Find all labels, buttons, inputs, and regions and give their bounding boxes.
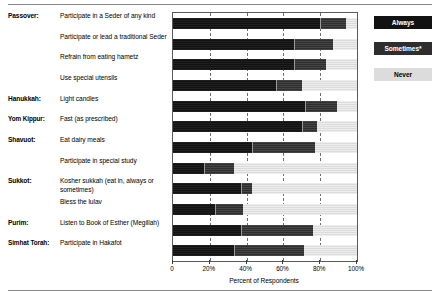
- bar-segment-never[interactable]: [313, 225, 357, 236]
- category-label-row: Hanukkah:Light candles: [0, 95, 170, 113]
- bar-segment-sometimes[interactable]: [234, 245, 304, 256]
- practice-label: Bless the lulav: [60, 198, 172, 206]
- practice-label: Participate in a Seder of any kind: [60, 12, 172, 20]
- bar-row[interactable]: [173, 183, 357, 194]
- x-axis-label: Percent of Respondents: [172, 277, 356, 284]
- bar-row[interactable]: [173, 39, 357, 50]
- category-label-column: Passover:Participate in a Seder of any k…: [0, 14, 172, 254]
- bar-segment-never[interactable]: [252, 183, 357, 194]
- bar-segment-never[interactable]: [317, 121, 357, 132]
- practice-label: Light candles: [60, 95, 172, 103]
- practice-label: Refrain from eating hametz: [60, 53, 172, 61]
- bar-row[interactable]: [173, 18, 357, 29]
- practice-label: Kosher sukkah (eat in, always or sometim…: [60, 177, 172, 193]
- bar-segment-sometimes[interactable]: [241, 183, 252, 194]
- bar-row[interactable]: [173, 142, 357, 153]
- bar-segment-sometimes[interactable]: [305, 101, 336, 112]
- bar-segment-always[interactable]: [173, 18, 320, 29]
- x-tick-label: 60%: [269, 265, 295, 272]
- legend-item-sometimes[interactable]: Sometimes*: [374, 42, 432, 55]
- bar-segment-never[interactable]: [243, 204, 357, 215]
- bar-row[interactable]: [173, 59, 357, 70]
- bar-segment-always[interactable]: [173, 204, 215, 215]
- holiday-label: Sukkot:: [8, 177, 68, 185]
- bar-segment-always[interactable]: [173, 101, 305, 112]
- bar-segment-sometimes[interactable]: [215, 204, 243, 215]
- x-tick-label: 80%: [306, 265, 332, 272]
- x-tick: [209, 260, 210, 264]
- category-label-row: Bless the lulav: [0, 198, 170, 216]
- bar-group: [173, 13, 357, 261]
- bar-segment-always[interactable]: [173, 245, 234, 256]
- x-axis: 020%40%60%80%100%: [172, 260, 356, 290]
- bar-segment-sometimes[interactable]: [204, 163, 233, 174]
- category-label-row: Refrain from eating hametz: [0, 53, 170, 71]
- category-label-row: Passover:Participate in a Seder of any k…: [0, 12, 170, 30]
- bar-segment-sometimes[interactable]: [320, 18, 346, 29]
- practice-label: Eat dairy meals: [60, 136, 172, 144]
- category-label-row: Simhat Torah:Participate in Hakafot: [0, 239, 170, 257]
- holiday-label: Purim:: [8, 219, 68, 227]
- practice-label: Use special utensils: [60, 74, 172, 82]
- bar-segment-always[interactable]: [173, 121, 302, 132]
- bar-row[interactable]: [173, 80, 357, 91]
- bar-segment-sometimes[interactable]: [294, 39, 333, 50]
- x-tick: [356, 260, 357, 264]
- holiday-label: Passover:: [8, 12, 68, 20]
- bar-segment-always[interactable]: [173, 183, 241, 194]
- bar-segment-never[interactable]: [302, 80, 357, 91]
- bar-segment-never[interactable]: [315, 142, 357, 153]
- bar-segment-never[interactable]: [304, 245, 357, 256]
- x-tick: [319, 260, 320, 264]
- category-label-row: Shavuot:Eat dairy meals: [0, 136, 170, 154]
- x-tick-label: 40%: [233, 265, 259, 272]
- practice-label: Participate or lead a traditional Seder: [60, 33, 172, 41]
- bar-segment-always[interactable]: [173, 225, 241, 236]
- category-label-row: Sukkot:Kosher sukkah (eat in, always or …: [0, 177, 170, 195]
- category-label-row: Purim:Listen to Book of Esther (Megillah…: [0, 219, 170, 237]
- bar-segment-always[interactable]: [173, 80, 276, 91]
- practice-label: Participate in Hakafot: [60, 239, 172, 247]
- bar-segment-always[interactable]: [173, 59, 294, 70]
- plot-area: [172, 12, 358, 262]
- legend-item-never[interactable]: Never: [374, 68, 432, 81]
- bar-segment-sometimes[interactable]: [252, 142, 315, 153]
- bar-segment-never[interactable]: [326, 59, 357, 70]
- bar-row[interactable]: [173, 163, 357, 174]
- bar-segment-never[interactable]: [333, 39, 357, 50]
- x-tick-label: 0: [159, 265, 185, 272]
- bar-segment-always[interactable]: [173, 39, 294, 50]
- category-label-row: Yom Kippur:Fast (as prescribed): [0, 115, 170, 133]
- bar-segment-sometimes[interactable]: [276, 80, 302, 91]
- legend-item-always[interactable]: Always: [374, 16, 432, 29]
- category-label-row: Use special utensils: [0, 74, 170, 92]
- bottom-divider-rule: [8, 290, 432, 291]
- bar-segment-never[interactable]: [346, 18, 357, 29]
- bar-segment-always[interactable]: [173, 163, 204, 174]
- bar-segment-always[interactable]: [173, 142, 252, 153]
- x-tick-label: 100%: [343, 265, 369, 272]
- bar-segment-never[interactable]: [337, 101, 357, 112]
- practice-label: Participate in special study: [60, 157, 172, 165]
- figure: Passover:Participate in a Seder of any k…: [0, 0, 440, 298]
- category-label-row: Participate in special study: [0, 157, 170, 175]
- x-tick: [172, 260, 173, 264]
- x-tick: [282, 260, 283, 264]
- holiday-label: Hanukkah:: [8, 95, 68, 103]
- bar-row[interactable]: [173, 204, 357, 215]
- x-tick: [246, 260, 247, 264]
- category-label-row: Participate or lead a traditional Seder: [0, 33, 170, 51]
- holiday-label: Shavuot:: [8, 136, 68, 144]
- top-divider-rule: [8, 4, 432, 5]
- bar-row[interactable]: [173, 245, 357, 256]
- bar-segment-sometimes[interactable]: [241, 225, 313, 236]
- x-tick-label: 20%: [196, 265, 222, 272]
- bar-segment-sometimes[interactable]: [294, 59, 325, 70]
- practice-label: Fast (as prescribed): [60, 115, 172, 123]
- bar-row[interactable]: [173, 225, 357, 236]
- bar-segment-never[interactable]: [234, 163, 357, 174]
- practice-label: Listen to Book of Esther (Megillah): [60, 219, 172, 227]
- bar-segment-sometimes[interactable]: [302, 121, 317, 132]
- bar-row[interactable]: [173, 101, 357, 112]
- bar-row[interactable]: [173, 121, 357, 132]
